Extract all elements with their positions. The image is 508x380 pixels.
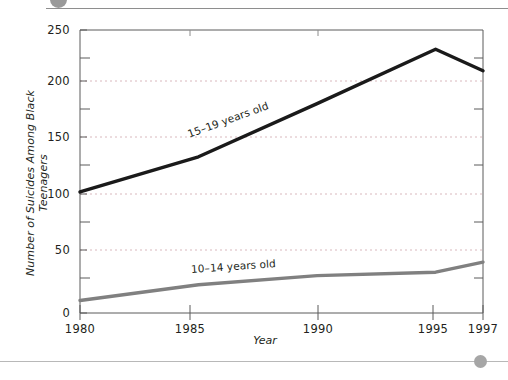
x-tick-label-1997: 1997 (460, 322, 506, 336)
x-tick-label-1980: 1980 (57, 322, 103, 336)
footer-divider (0, 361, 508, 362)
y-axis-label: Number of Suicides Among Black Teenagers (24, 63, 50, 303)
y-axis-ticks (80, 30, 90, 313)
x-tick-label-1995: 1995 (410, 322, 456, 336)
line-chart: 250 200 150 100 50 0 1980 1985 1990 1995… (0, 0, 508, 380)
y-tick-label-0: 0 (38, 306, 70, 320)
panel-separators (190, 30, 318, 36)
x-axis-label: Year (205, 334, 325, 347)
series-line-10-14-years-old (80, 262, 483, 300)
plot-frame (80, 30, 483, 313)
gridlines (80, 81, 483, 250)
y-tick-label-250: 250 (38, 23, 70, 37)
right-axis-ticks (474, 58, 483, 278)
circle-bullet-icon (474, 355, 487, 368)
series-line-15-19-years-old (80, 49, 483, 192)
